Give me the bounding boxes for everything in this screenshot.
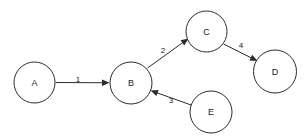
node-label: D (272, 67, 279, 77)
arrowhead-icon (151, 90, 159, 96)
node-c[interactable]: C (186, 11, 227, 52)
edge-label: 2 (161, 46, 166, 55)
node-label: C (203, 27, 210, 37)
edge-line (148, 41, 185, 68)
diagram-canvas: 1234ABCDE (0, 0, 306, 140)
edge-line (155, 92, 192, 105)
edge-a-to-b: 1 (56, 75, 110, 86)
node-a[interactable]: A (14, 62, 55, 103)
node-label: A (31, 78, 37, 88)
edge-c-to-d: 4 (224, 41, 258, 62)
node-label: E (208, 107, 214, 117)
node-d[interactable]: D (254, 50, 297, 93)
edge-label: 3 (169, 96, 174, 105)
edge-label: 1 (76, 75, 81, 84)
directed-graph: 1234ABCDE (0, 0, 306, 140)
edge-b-to-c: 2 (148, 39, 189, 69)
edge-label: 4 (239, 41, 244, 50)
node-e[interactable]: E (190, 91, 232, 133)
node-b[interactable]: B (110, 62, 152, 104)
arrowhead-icon (102, 80, 110, 86)
node-label: B (128, 78, 134, 88)
edge-e-to-b: 3 (151, 90, 193, 105)
